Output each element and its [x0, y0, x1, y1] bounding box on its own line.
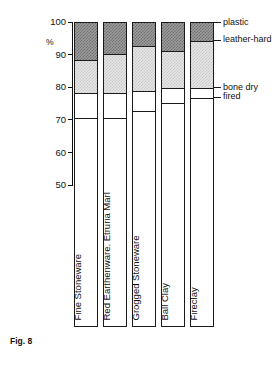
legend-label: leather-hard	[223, 35, 272, 44]
category-label: Red Earthenware. Etruria Marl	[103, 192, 111, 320]
bar-column[interactable]: Fireclay	[190, 22, 214, 327]
y-axis-tick-label: 70	[55, 115, 66, 125]
figure-root: % 1009080706050 Fine StonewareRed Earthe…	[0, 0, 272, 368]
bar-column[interactable]: Ball Clay	[161, 22, 185, 327]
bar-segment-leather-hard	[133, 46, 155, 92]
legend-leader-line	[214, 87, 221, 88]
segment-divider	[104, 93, 126, 94]
y-axis-spine	[72, 22, 73, 185]
y-axis-unit-label: %	[46, 37, 54, 47]
segment-divider	[133, 46, 155, 47]
bar-segment-leather-hard	[75, 60, 97, 93]
y-axis-tick-label: 50	[55, 180, 66, 190]
segment-divider	[162, 103, 184, 104]
category-label: Ball Clay	[161, 283, 169, 321]
y-axis-tick-label: 80	[55, 82, 66, 92]
legend-label: fired	[223, 92, 241, 101]
bar-segment-leather-hard	[191, 41, 213, 88]
legend-label: bone dry	[223, 83, 258, 92]
segment-divider	[162, 88, 184, 89]
category-label: Fireclay	[190, 287, 198, 320]
bar-column[interactable]: Red Earthenware. Etruria Marl	[103, 22, 127, 327]
segment-divider	[75, 60, 97, 61]
segment-divider	[104, 54, 126, 55]
segment-divider	[104, 118, 126, 119]
segment-divider	[162, 51, 184, 52]
segment-divider	[75, 118, 97, 119]
bar-segment-plastic	[133, 23, 155, 46]
bar-segment-bone-dry	[162, 88, 184, 103]
segment-divider	[191, 98, 213, 99]
legend-leader-line	[214, 97, 221, 98]
bar-segment-bone-dry	[75, 93, 97, 117]
y-axis-tick-label: 100	[50, 17, 66, 27]
bar-segment-leather-hard	[162, 51, 184, 88]
bar-segment-leather-hard	[104, 54, 126, 93]
category-label: Fine Stoneware	[74, 253, 82, 320]
bar-segment-bone-dry	[133, 91, 155, 111]
bar-segment-plastic	[104, 23, 126, 54]
segment-divider	[75, 93, 97, 94]
segment-divider	[133, 91, 155, 92]
legend-label: plastic	[223, 18, 249, 27]
bar-segment-bone-dry	[191, 88, 213, 98]
segment-divider	[191, 41, 213, 42]
bar-segment-plastic	[191, 23, 213, 41]
bar-segment-plastic	[162, 23, 184, 51]
legend-leader-line	[214, 40, 221, 41]
segment-divider	[133, 111, 155, 112]
segment-divider	[191, 88, 213, 89]
bar-segment-plastic	[75, 23, 97, 60]
category-label: Grogged Stoneware	[132, 235, 140, 320]
figure-caption: Fig. 8	[10, 336, 32, 346]
legend-leader-line	[214, 22, 221, 23]
y-axis-tick-label: 60	[55, 147, 66, 157]
bar-segment-bone-dry	[104, 93, 126, 117]
bar-column[interactable]: Fine Stoneware	[74, 22, 98, 327]
bar-column[interactable]: Grogged Stoneware	[132, 22, 156, 327]
y-axis-tick-label: 90	[55, 49, 66, 59]
